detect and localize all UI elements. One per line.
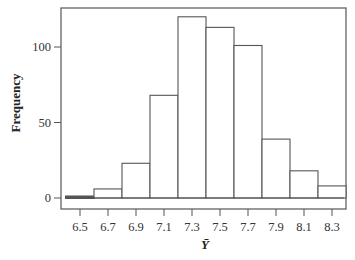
- x-tick-label: 6.9: [128, 220, 144, 234]
- histogram-bar: [178, 17, 206, 198]
- x-axis: 6.56.76.97.17.37.57.77.98.18.3: [72, 209, 340, 234]
- histogram-bar: [94, 189, 122, 198]
- histogram-bars: [66, 17, 346, 198]
- x-tick-label: 7.1: [156, 220, 172, 234]
- histogram-bar: [234, 45, 262, 198]
- histogram-bar: [318, 186, 346, 198]
- histogram-bar: [206, 27, 234, 198]
- histogram-bar: [150, 95, 178, 198]
- histogram-bar: [290, 171, 318, 198]
- histogram-bar: [262, 139, 290, 198]
- y-tick-label: 100: [32, 40, 51, 54]
- histogram-bar: [122, 163, 150, 198]
- y-axis-label: Frequency: [8, 73, 23, 132]
- x-tick-label: 7.9: [268, 220, 284, 234]
- x-tick-label: 7.5: [212, 220, 228, 234]
- x-tick-label: 8.1: [296, 220, 312, 234]
- x-axis-label: Ȳ: [201, 237, 210, 252]
- x-tick-label: 6.7: [100, 220, 116, 234]
- y-axis: 050100: [32, 40, 61, 205]
- x-tick-label: 6.5: [72, 220, 88, 234]
- histogram-chart: 050100 6.56.76.97.17.37.57.77.98.18.3 Fr…: [0, 0, 355, 260]
- y-tick-label: 50: [39, 116, 52, 130]
- x-tick-label: 7.3: [184, 220, 200, 234]
- y-tick-label: 0: [45, 191, 51, 205]
- x-tick-label: 8.3: [324, 220, 340, 234]
- x-tick-label: 7.7: [240, 220, 256, 234]
